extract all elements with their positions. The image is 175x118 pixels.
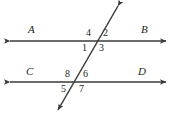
angle-label-7: 7 [79, 84, 84, 94]
angle-label-6: 6 [83, 69, 88, 79]
angle-label-4: 4 [86, 28, 91, 38]
line-label-b: B [141, 24, 148, 35]
angle-label-8: 8 [65, 69, 70, 79]
line-label-c: C [26, 66, 33, 77]
geometry-figure: A B C D 4 2 1 3 8 6 5 7 [0, 0, 175, 118]
angle-label-3: 3 [99, 43, 104, 53]
line-label-d: D [138, 66, 146, 77]
geometry-diagram [0, 0, 175, 118]
angle-label-1: 1 [82, 43, 87, 53]
transversal-line [58, 6, 118, 110]
line-label-a: A [28, 24, 35, 35]
angle-label-2: 2 [103, 28, 108, 38]
angle-label-5: 5 [61, 84, 66, 94]
